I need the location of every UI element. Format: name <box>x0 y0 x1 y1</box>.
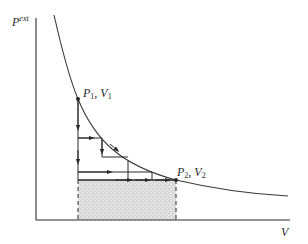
x-axis-label: V <box>281 226 288 238</box>
point2-label: P2, V2 <box>177 166 206 180</box>
work-area-shading <box>78 180 176 220</box>
point1-label: P1, V1 <box>83 87 112 101</box>
y-axis-label-superscript: ext <box>19 14 28 23</box>
y-axis-label: Pext <box>12 15 29 28</box>
x-axis-label-text: V <box>281 225 288 239</box>
isotherm-curve <box>54 15 288 196</box>
point2-v-sub: 2 <box>202 171 206 180</box>
staircase-path <box>78 99 176 180</box>
point2-v: V <box>194 165 201 179</box>
point-p1-v1 <box>76 97 80 101</box>
point1-v: V <box>100 86 107 100</box>
pv-diagram <box>0 0 308 244</box>
point1-v-sub: 1 <box>108 92 112 101</box>
